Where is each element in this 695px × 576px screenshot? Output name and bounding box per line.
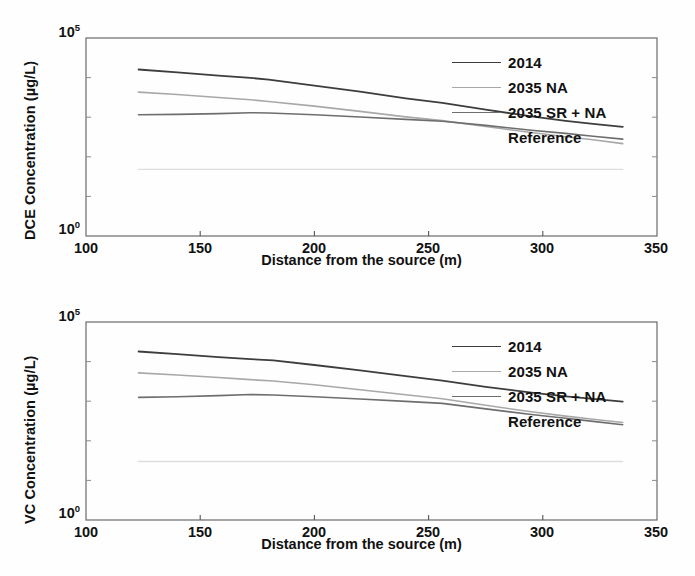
legend-line-swatch-2035-sr-na bbox=[452, 112, 501, 113]
x-tick-label-vc-0: 100 bbox=[63, 524, 109, 540]
legend-label-reference: Reference bbox=[508, 413, 581, 430]
y-tick-mantissa: 10 bbox=[59, 308, 75, 324]
x-tick-label-dce-0: 100 bbox=[63, 240, 109, 256]
y-tick-mantissa: 10 bbox=[59, 24, 75, 40]
y-tick-exponent: 0 bbox=[75, 503, 80, 514]
legend-item-2035-na[interactable]: 2035 NA bbox=[452, 75, 606, 100]
y-axis-label-dce: DCE Concentration (µg/L) bbox=[22, 61, 38, 240]
x-axis-label-vc: Distance from the source (m) bbox=[14, 536, 695, 552]
x-tick-label-vc-4: 300 bbox=[519, 524, 565, 540]
legend-item-2014[interactable]: 2014 bbox=[452, 50, 606, 75]
x-tick-label-vc-3: 250 bbox=[405, 524, 451, 540]
x-tick-label-vc-2: 200 bbox=[291, 524, 337, 540]
legend-label-reference: Reference bbox=[508, 129, 581, 146]
legend-item-2035-sr-na[interactable]: 2035 SR + NA bbox=[452, 384, 606, 409]
legend-line-swatch-2035-na bbox=[452, 87, 501, 88]
chart-panel-dce: DCE Concentration (µg/L) Distance from t… bbox=[0, 0, 695, 288]
legend-label-2035-sr-na: 2035 SR + NA bbox=[508, 104, 606, 121]
legend-item-2035-na[interactable]: 2035 NA bbox=[452, 359, 606, 384]
x-tick-label-vc-1: 150 bbox=[177, 524, 223, 540]
y-tick-mantissa: 10 bbox=[59, 505, 75, 521]
legend-line-swatch-reference bbox=[452, 421, 501, 422]
x-tick-label-dce-2: 200 bbox=[291, 240, 337, 256]
legend-line-swatch-2035-sr-na bbox=[452, 396, 501, 397]
y-tick-exponent: 5 bbox=[75, 22, 80, 33]
legend-label-2035-na: 2035 NA bbox=[508, 363, 568, 380]
legend-label-2014: 2014 bbox=[508, 54, 542, 71]
y-tick-label-vc-bottom: 100 bbox=[36, 503, 80, 521]
legend-item-reference[interactable]: Reference bbox=[452, 125, 606, 150]
legend-vc: 2014 2035 NA 2035 SR + NA Reference bbox=[452, 334, 606, 434]
y-tick-label-dce-bottom: 100 bbox=[36, 219, 80, 237]
x-tick-label-dce-5: 350 bbox=[633, 240, 679, 256]
y-tick-exponent: 5 bbox=[75, 306, 80, 317]
y-tick-exponent: 0 bbox=[75, 219, 80, 230]
y-tick-label-vc-top: 105 bbox=[36, 306, 80, 324]
legend-label-2035-na: 2035 NA bbox=[508, 79, 568, 96]
x-tick-label-dce-3: 250 bbox=[405, 240, 451, 256]
x-tick-label-dce-4: 300 bbox=[519, 240, 565, 256]
legend-item-2014[interactable]: 2014 bbox=[452, 334, 606, 359]
y-tick-mantissa: 10 bbox=[59, 221, 75, 237]
legend-item-reference[interactable]: Reference bbox=[452, 409, 606, 434]
legend-dce: 2014 2035 NA 2035 SR + NA Reference bbox=[452, 50, 606, 150]
chart-panel-vc: VC Concentration (µg/L) Distance from th… bbox=[0, 288, 695, 576]
legend-item-2035-sr-na[interactable]: 2035 SR + NA bbox=[452, 100, 606, 125]
y-axis-label-vc: VC Concentration (µg/L) bbox=[22, 355, 38, 524]
x-axis-label-dce: Distance from the source (m) bbox=[14, 252, 695, 268]
x-tick-label-vc-5: 350 bbox=[633, 524, 679, 540]
legend-line-swatch-reference bbox=[452, 137, 501, 138]
legend-label-2014: 2014 bbox=[508, 338, 542, 355]
x-tick-label-dce-1: 150 bbox=[177, 240, 223, 256]
legend-line-swatch-2035-na bbox=[452, 371, 501, 372]
y-tick-label-dce-top: 105 bbox=[36, 22, 80, 40]
figure-container: DCE Concentration (µg/L) Distance from t… bbox=[0, 0, 695, 576]
legend-label-2035-sr-na: 2035 SR + NA bbox=[508, 388, 606, 405]
legend-line-swatch-2014 bbox=[452, 62, 501, 63]
legend-line-swatch-2014 bbox=[452, 346, 501, 347]
